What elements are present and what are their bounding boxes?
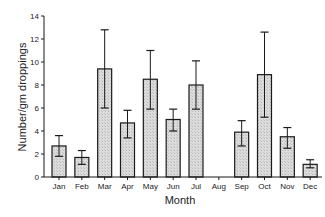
x-tick-label: Jul <box>191 182 201 191</box>
x-axis: JanFebMarAprMayJunJulAugSepOctNovDec <box>44 177 322 191</box>
x-tick-label: Oct <box>258 182 271 191</box>
bar-jun <box>166 109 180 177</box>
x-tick-label: Apr <box>121 182 134 191</box>
x-tick-label: May <box>143 182 158 191</box>
y-axis-label: Number/gm droppings <box>16 42 28 151</box>
bar-nov <box>280 128 294 177</box>
bar-jan <box>52 136 66 177</box>
x-tick-label: Feb <box>75 182 89 191</box>
x-tick-label: Jun <box>167 182 180 191</box>
bars-group <box>52 30 317 177</box>
y-tick-label: 0 <box>35 173 40 182</box>
x-tick-label: Jan <box>53 182 66 191</box>
y-tick-label: 4 <box>35 127 40 136</box>
y-tick-label: 14 <box>30 12 39 21</box>
bar-mar <box>98 30 112 177</box>
bar-chart: Number/gm droppings Month 02468101214 Ja… <box>0 0 325 217</box>
y-tick-label: 10 <box>30 58 39 67</box>
bar-jul <box>189 61 203 177</box>
x-tick-label: Aug <box>212 182 226 191</box>
x-axis-label: Month <box>165 194 196 206</box>
x-tick-label: Dec <box>303 182 317 191</box>
bar-sep <box>235 121 249 177</box>
y-axis: 02468101214 <box>30 12 44 182</box>
y-tick-label: 8 <box>35 81 40 90</box>
x-tick-label: Nov <box>280 182 294 191</box>
x-tick-label: Mar <box>98 182 112 191</box>
y-tick-label: 2 <box>35 150 40 159</box>
y-tick-label: 12 <box>30 35 39 44</box>
bar-apr <box>121 110 135 177</box>
x-tick-label: Sep <box>235 182 250 191</box>
bar-may <box>143 51 157 178</box>
bar-oct <box>258 32 272 177</box>
bar-dec <box>303 160 317 177</box>
bar-feb <box>75 151 89 177</box>
y-tick-label: 6 <box>35 104 40 113</box>
